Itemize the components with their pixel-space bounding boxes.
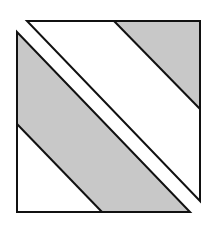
diagram-canvas: [0, 0, 216, 228]
